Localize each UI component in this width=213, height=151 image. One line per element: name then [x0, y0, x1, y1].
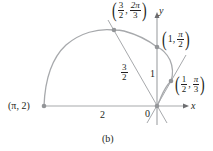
origin-label: 0 [145, 109, 150, 119]
x-axis-label: x [191, 101, 195, 111]
theta-fraction: π 2 [177, 30, 184, 49]
theta-fraction: π 3 [193, 75, 200, 94]
segment-label-2: 2 [100, 110, 105, 120]
r-fraction: 1 2 [181, 75, 188, 94]
figure-caption: (b) [102, 134, 114, 144]
left-paren: ( [175, 74, 180, 94]
theta-fraction: 2π 3 [130, 1, 141, 20]
r-fraction: 3 2 [118, 1, 125, 20]
segment-label-3-halves: 3 2 [121, 63, 128, 82]
left-paren: ( [112, 0, 117, 20]
point-half-pi3 [169, 79, 174, 84]
segment-label-1: 1 [150, 69, 155, 79]
point-origin [155, 104, 160, 109]
left-paren: ( [162, 29, 167, 49]
point-1-pi2 [155, 45, 160, 50]
point-label-3half-2pi3: ( 3 2 , 2π 3 ) [111, 0, 147, 20]
point-label-half-pi3: ( 1 2 , π 3 ) [174, 74, 206, 94]
three-halves-fraction: 3 2 [121, 63, 128, 82]
y-axis-label: y [159, 6, 163, 16]
right-paren: ) [142, 0, 147, 20]
right-paren: ) [200, 74, 205, 94]
point-3half-2pi3 [112, 28, 117, 33]
right-paren: ) [185, 29, 190, 49]
x-axis-arrow-icon [183, 104, 189, 109]
point-label-1-pi2: ( 1 , π 2 ) [161, 29, 190, 49]
point-label-pi-2: (π, 2) [8, 101, 30, 111]
point-pi-2 [42, 104, 47, 109]
